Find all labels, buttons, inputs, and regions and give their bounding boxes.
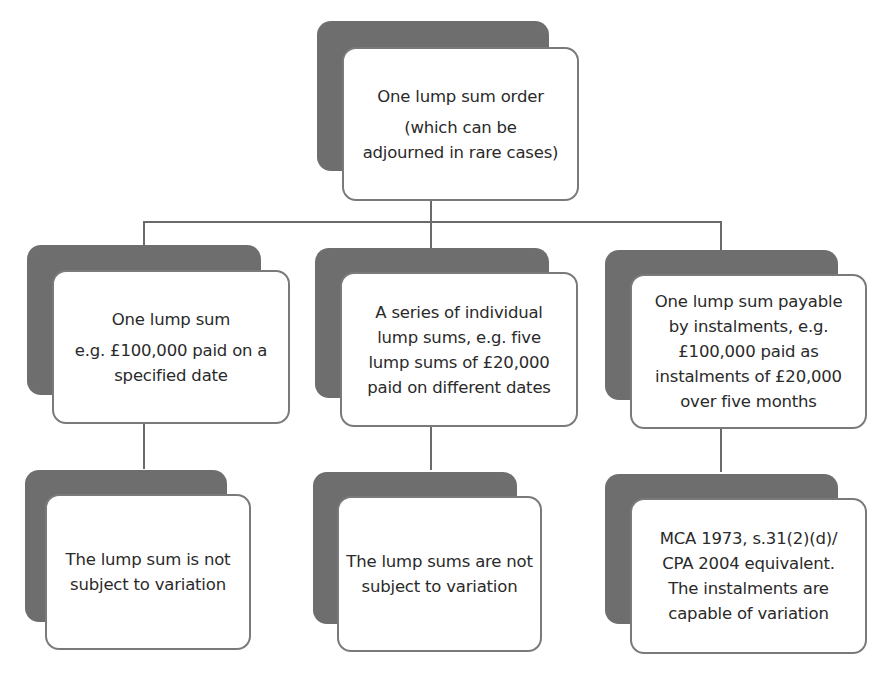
branch-2-type-text: paid on different dates [367, 375, 550, 400]
branch-2-outcome-text: The lump sums are not [346, 549, 533, 574]
connector-branch-1-outcome [143, 423, 145, 469]
branch-1-outcome-card: The lump sum is not subject to variation [45, 494, 251, 650]
connector-root-down [430, 200, 432, 223]
branch-3-type-text: by instalments, e.g. [669, 314, 829, 339]
branch-2-outcome-text: subject to variation [362, 574, 518, 599]
branch-2-type-text: lump sums, e.g. five [377, 325, 541, 350]
root-node-text: (which can be [404, 115, 517, 140]
root-node-text: adjourned in rare cases) [363, 140, 559, 165]
branch-3-outcome-text: capable of variation [668, 601, 828, 626]
branch-2-type-card: A series of individual lump sums, e.g. f… [340, 272, 578, 427]
branch-3-type-text: over five months [680, 389, 817, 414]
branch-2-type-text: A series of individual [375, 300, 542, 325]
connector-horizontal-bus [143, 221, 721, 223]
branch-1-type-text: e.g. £100,000 paid on a [75, 338, 268, 363]
root-node-heading: One lump sum order [377, 84, 543, 109]
root-node-card: One lump sum order (which can be adjourn… [342, 47, 579, 201]
branch-2-outcome-card: The lump sums are not subject to variati… [337, 496, 542, 652]
connector-branch-3-down [720, 221, 722, 250]
branch-3-type-text: £100,000 paid as [678, 339, 818, 364]
branch-3-outcome-text: CPA 2004 equivalent. [662, 551, 835, 576]
branch-1-type-text: specified date [114, 363, 228, 388]
branch-3-outcome-card: MCA 1973, s.31(2)(d)/ CPA 2004 equivalen… [630, 498, 867, 654]
connector-branch-2-down [430, 221, 432, 248]
branch-3-outcome-text: MCA 1973, s.31(2)(d)/ [660, 526, 838, 551]
branch-1-outcome-text: subject to variation [70, 572, 226, 597]
branch-1-type-heading: One lump sum [112, 307, 230, 332]
branch-3-type-text: One lump sum payable [655, 289, 843, 314]
branch-3-type-text: instalments of £20,000 [655, 364, 842, 389]
branch-3-outcome-text: The instalments are [668, 576, 829, 601]
connector-branch-3-outcome [720, 428, 722, 472]
connector-branch-2-outcome [430, 426, 432, 470]
connector-branch-1-down [143, 221, 145, 246]
branch-2-type-text: lump sums of £20,000 [368, 350, 549, 375]
branch-1-outcome-text: The lump sum is not [66, 547, 231, 572]
branch-1-type-card: One lump sum e.g. £100,000 paid on a spe… [52, 270, 290, 424]
branch-3-type-card: One lump sum payable by instalments, e.g… [630, 274, 867, 429]
